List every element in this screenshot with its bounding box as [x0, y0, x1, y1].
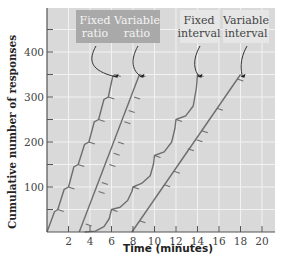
- x-tick-label: 6: [108, 235, 115, 247]
- label-text: Fixed: [184, 14, 215, 27]
- y-tick-label: 300: [24, 91, 44, 103]
- x-axis-label: Time (minutes): [123, 242, 213, 254]
- x-tick-label: 16: [212, 235, 226, 247]
- label-text: Variable: [113, 14, 160, 27]
- label-text: Fixed: [80, 14, 111, 27]
- y-tick-label: 200: [24, 136, 44, 148]
- x-tick-label: 20: [255, 235, 268, 247]
- label-text: Variable: [222, 14, 269, 27]
- label-text: ratio: [82, 27, 109, 40]
- y-tick-label: 100: [24, 181, 44, 193]
- plot-area: FixedratioVariableratioFixedintervalVari…: [47, 8, 275, 232]
- cumulative-response-chart: FixedratioVariableratioFixedintervalVari…: [0, 0, 282, 268]
- label-text: ratio: [124, 27, 151, 40]
- label-text: interval: [224, 27, 268, 40]
- x-tick-label: 2: [65, 235, 72, 247]
- label-text: interval: [177, 27, 221, 40]
- y-tick-label: 400: [24, 46, 44, 58]
- y-axis-label: Cumulative number of responses: [6, 35, 18, 229]
- x-tick-label: 4: [87, 235, 94, 247]
- x-tick-label: 18: [234, 235, 247, 247]
